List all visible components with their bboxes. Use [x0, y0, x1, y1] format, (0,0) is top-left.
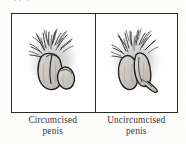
figure-frame — [11, 13, 178, 113]
figure-panel-left — [12, 14, 95, 112]
cut-off-text-sliver: py y — [0, 0, 186, 9]
uncircumcised-penis-illustration — [105, 24, 167, 102]
figure-captions: Circumcised penis Uncircumcised penis — [11, 115, 178, 144]
caption-left-line2: penis — [11, 126, 95, 137]
cut-off-text: py y — [14, 0, 31, 1]
caption-left: Circumcised penis — [11, 115, 95, 144]
figure-panel-right — [95, 14, 178, 112]
circumcised-penis-illustration — [22, 24, 84, 102]
caption-right: Uncircumcised penis — [95, 115, 179, 144]
document-page: py y — [0, 0, 186, 144]
caption-right-line1: Uncircumcised — [95, 115, 179, 126]
caption-left-line1: Circumcised — [11, 115, 95, 126]
caption-right-line2: penis — [95, 126, 179, 137]
